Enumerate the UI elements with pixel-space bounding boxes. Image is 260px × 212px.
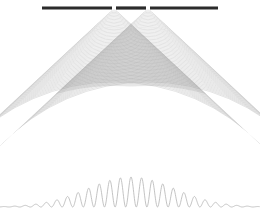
wavefront-arc — [105, 12, 122, 16]
wavefront-arc — [145, 9, 151, 10]
wavefront-arc — [0, 82, 260, 146]
slit-aperture-1 — [112, 6, 116, 9]
wave-diagram-canvas — [0, 0, 260, 212]
wavefront-arc — [111, 9, 117, 10]
double-slit-figure — [0, 0, 260, 212]
slit-aperture-2 — [146, 6, 150, 9]
wavefront-arc — [100, 15, 129, 21]
wavefront-arc — [139, 12, 156, 16]
wavefront-arc — [134, 15, 163, 21]
wavefront-arc — [0, 82, 260, 146]
intensity-curve — [0, 177, 260, 207]
